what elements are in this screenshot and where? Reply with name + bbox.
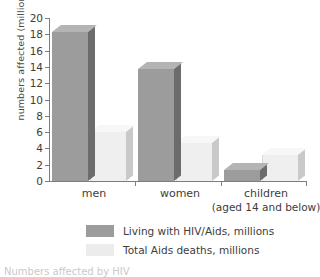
y-tick-label: 10 (30, 94, 43, 105)
bar-children-series-2 (262, 155, 298, 181)
x-tick (221, 181, 222, 186)
bar-children-series-1 (224, 170, 260, 181)
legend-item-living-with-hiv: Living with HIV/Aids, millions (86, 223, 274, 238)
y-tick-label: 14 (30, 62, 43, 73)
y-tick-label: 12 (30, 78, 43, 89)
bar-front-face (138, 69, 174, 181)
y-tick-label: 4 (36, 143, 43, 154)
y-tick-label: 18 (30, 29, 43, 40)
y-tick-label: 16 (30, 45, 43, 56)
bar-women-series-2 (176, 143, 212, 181)
y-tick (45, 116, 49, 117)
bar-side-face (174, 63, 181, 181)
y-tick-label: 0 (36, 176, 43, 187)
bar-front-face (52, 32, 88, 181)
y-tick-label: 2 (36, 159, 43, 170)
chart-legend: Living with HIV/Aids, millions Total Aid… (86, 223, 274, 261)
x-category-label-men: men (82, 188, 106, 201)
legend-item-total-aids-deaths: Total Aids deaths, millions (86, 242, 274, 257)
x-category-label-women: women (160, 188, 200, 201)
bar-side-face (298, 149, 305, 181)
y-tick-label: 20 (30, 13, 43, 24)
bar-men-series-1 (52, 32, 88, 181)
x-category-label-children: children(aged 14 and below) (212, 188, 320, 213)
x-tick (135, 181, 136, 186)
figure-caption: Numbers affected by HIV (4, 266, 130, 277)
plot-area: 02468101214161820 (49, 18, 307, 182)
y-tick (45, 18, 49, 19)
x-category-sublabel: (aged 14 and below) (212, 201, 320, 213)
y-tick (45, 132, 49, 133)
y-tick-label: 6 (36, 127, 43, 138)
y-tick (45, 100, 49, 101)
bar-front-face (224, 170, 260, 181)
bar-front-face (176, 143, 212, 181)
bar-women-series-1 (138, 69, 174, 181)
x-tick (306, 181, 307, 186)
legend-label-living-with-hiv: Living with HIV/Aids, millions (123, 225, 274, 237)
y-tick (45, 83, 49, 84)
y-tick (45, 181, 49, 182)
y-tick (45, 148, 49, 149)
bar-side-face (126, 127, 133, 181)
legend-label-total-aids-deaths: Total Aids deaths, millions (123, 244, 259, 256)
y-tick (45, 165, 49, 166)
y-axis-line (49, 18, 50, 182)
legend-swatch-living-with-hiv (86, 225, 114, 237)
bar-men-series-2 (90, 132, 126, 181)
bar-front-face (90, 132, 126, 181)
y-axis-title: numbers affected (millions) (15, 0, 26, 134)
y-tick (45, 67, 49, 68)
y-tick (45, 51, 49, 52)
bar-front-face (262, 155, 298, 181)
bar-side-face (212, 137, 219, 181)
bar-side-face (88, 26, 95, 181)
y-tick (45, 34, 49, 35)
legend-swatch-total-aids-deaths (86, 244, 114, 256)
y-tick-label: 8 (36, 111, 43, 122)
